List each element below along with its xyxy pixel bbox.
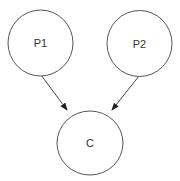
node-c: C: [57, 111, 123, 175]
edge-p1-to-c: [41, 75, 67, 110]
node-p1-label: P1: [34, 37, 47, 49]
node-p1: P1: [8, 10, 73, 76]
diagram-canvas: P1 P2 C: [0, 0, 180, 181]
node-p2: P2: [107, 11, 172, 77]
node-c-label: C: [86, 137, 94, 149]
node-p2-label: P2: [133, 38, 146, 50]
edge-p2-to-c: [112, 76, 139, 110]
